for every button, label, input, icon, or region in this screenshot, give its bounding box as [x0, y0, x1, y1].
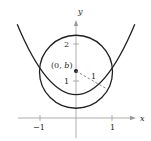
x-tick-label-neg1: −1 — [33, 123, 45, 132]
y-axis-arrow-icon — [74, 20, 78, 26]
x-tick-label-1: 1 — [110, 123, 115, 132]
diagram-canvas: y x −1 1 1 2 (0, b) 1 — [0, 0, 151, 141]
radius-label: 1 — [91, 72, 96, 81]
y-axis-label: y — [77, 7, 83, 16]
x-axis — [18, 116, 136, 120]
y-tick-label-1: 1 — [64, 77, 69, 86]
y-tick-label-2: 2 — [64, 40, 69, 49]
y-axis — [74, 20, 78, 138]
b-variable: b — [64, 61, 69, 70]
x-axis-label: x — [140, 114, 145, 123]
center-point-label: (0, b) — [51, 61, 73, 70]
x-axis-arrow-icon — [130, 116, 136, 120]
